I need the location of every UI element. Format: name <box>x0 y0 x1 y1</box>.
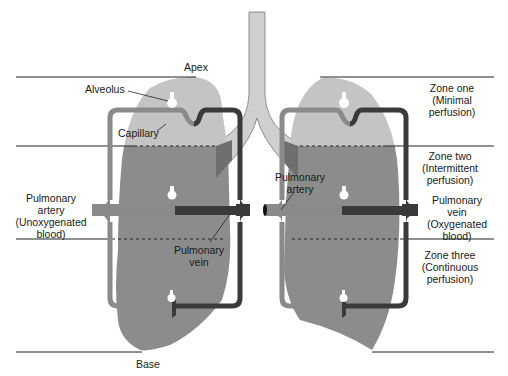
label-zone-three-2: (Continuous <box>422 261 479 273</box>
label-zone-two-2: (Intermittent <box>422 162 478 174</box>
label-zone-one-1: Zone one <box>430 82 475 94</box>
label-capillary: Capillary <box>118 127 160 139</box>
label-zone-two-3: perfusion) <box>427 174 474 186</box>
label-left-vein-1: Pulmonary <box>174 244 225 256</box>
lung-zones-diagram: Apex Alveolus Capillary Base Pulmonary a… <box>0 0 508 376</box>
label-right-vein-2: vein <box>447 206 466 218</box>
label-left-artery-4: blood) <box>36 228 65 240</box>
label-right-artery-1: Pulmonary <box>275 171 326 183</box>
label-left-vein-2: vein <box>189 256 208 268</box>
label-zone-two-1: Zone two <box>428 150 471 162</box>
label-left-artery-2: artery <box>38 204 66 216</box>
label-left-artery-3: (Unoxygenated <box>15 216 86 228</box>
label-right-artery-2: artery <box>287 183 315 195</box>
label-zone-one-3: perfusion) <box>429 106 476 118</box>
label-base: Base <box>136 358 160 370</box>
label-apex: Apex <box>184 61 209 73</box>
label-right-vein-4: blood) <box>442 230 471 242</box>
label-alveolus: Alveolus <box>85 83 125 95</box>
label-right-vein-1: Pulmonary <box>432 194 483 206</box>
label-left-artery-1: Pulmonary <box>26 192 77 204</box>
label-right-vein-3: (Oxygenated <box>427 218 487 230</box>
label-zone-one-2: (Minimal <box>432 94 472 106</box>
label-zone-three-3: perfusion) <box>427 273 474 285</box>
label-zone-three-1: Zone three <box>425 249 476 261</box>
